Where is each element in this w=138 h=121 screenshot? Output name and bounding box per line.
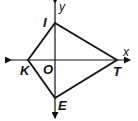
coordinate-plane: y x O I K T E	[0, 0, 138, 121]
vertex-label-K: K	[20, 63, 31, 78]
vertex-label-T: T	[113, 64, 122, 79]
y-axis-label: y	[58, 0, 66, 14]
kite-diagram: y x O I K T E	[0, 0, 138, 121]
x-axis-label: x	[122, 45, 130, 59]
origin-label: O	[43, 62, 53, 77]
vertex-label-I: I	[43, 15, 47, 30]
vertex-label-E: E	[58, 98, 67, 113]
